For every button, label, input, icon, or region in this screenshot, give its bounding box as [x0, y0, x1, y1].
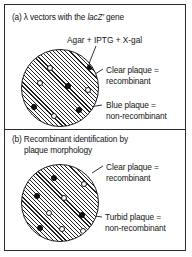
panel-a: (a) λ vectors with the lacZ′ gene Agar +… [5, 5, 185, 129]
clear-plaque-line1: Clear plaque = [106, 162, 159, 172]
plaque-marker [47, 65, 53, 71]
turbid-plaque-line1: Turbid plaque = [105, 212, 161, 222]
panel-a-title: (a) λ vectors with the lacZ′ gene [12, 12, 124, 23]
panel-a-title-after: gene [104, 12, 124, 22]
agar-medium-label: Agar + IPTG + X-gal [67, 35, 142, 45]
plaque-marker [51, 175, 57, 181]
panel-b-title-line2: plaque morphology [12, 145, 180, 156]
agar-plate-a [21, 49, 99, 127]
plaque-marker [80, 228, 86, 234]
panel-b: (b) Recombinant identification by plaque… [5, 130, 185, 251]
clear-plaque-line2: recombinant [106, 76, 159, 87]
plaque-marker [59, 226, 65, 232]
panel-a-title-gene: lacZ′ [87, 12, 103, 22]
blue-plaque-callout-a: Blue plaque = non-recombinant [106, 100, 167, 121]
plaque-marker [51, 113, 57, 119]
blue-plaque-line2: non-recombinant [106, 111, 167, 122]
panel-a-title-before: (a) λ vectors with the [12, 12, 87, 22]
figure-frame: (a) λ vectors with the lacZ′ gene Agar +… [4, 4, 186, 251]
turbid-plaque-callout-b: Turbid plaque = non-recombinant [105, 212, 166, 233]
plaque-marker [37, 80, 43, 86]
plaque-marker [65, 83, 71, 89]
clear-plaque-line1: Clear plaque = [106, 65, 159, 75]
leader-clear-plaque-icon [92, 166, 103, 173]
clear-plaque-callout-b: Clear plaque = recombinant [106, 162, 159, 183]
plaque-marker [81, 181, 87, 187]
plaque-marker [61, 195, 67, 201]
plaque-marker [46, 210, 52, 216]
turbid-plaque-line2: non-recombinant [105, 223, 166, 234]
plaque-marker [34, 193, 40, 199]
plaque-marker [79, 212, 85, 218]
clear-plaque-line2: recombinant [106, 173, 159, 184]
plaque-marker [37, 225, 43, 231]
agar-plate-b [21, 164, 99, 242]
clear-plaque-callout-a: Clear plaque = recombinant [106, 65, 159, 86]
plaque-marker [85, 87, 91, 93]
panel-b-title-line1: (b) Recombinant identification by [12, 134, 128, 144]
plaque-marker [87, 64, 93, 70]
plaque-marker [31, 104, 37, 110]
plaque-marker [76, 107, 82, 113]
blue-plaque-line1: Blue plaque = [106, 100, 156, 110]
panel-b-title: (b) Recombinant identification by plaque… [12, 134, 180, 155]
